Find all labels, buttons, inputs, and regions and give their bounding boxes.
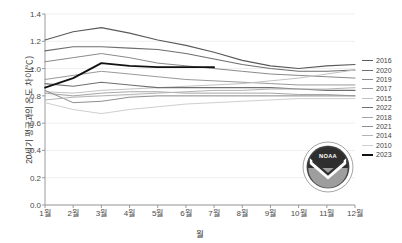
legend-label: 2010 <box>376 141 392 150</box>
x-tick-label: 5월 <box>152 207 163 218</box>
y-tick-label: 0.6 <box>17 119 41 128</box>
legend-item-2023[interactable]: 2023 <box>362 150 402 159</box>
series-line-2010 <box>45 99 355 114</box>
x-tick-label: 6월 <box>180 207 191 218</box>
legend-item-2020[interactable]: 2020 <box>362 65 402 74</box>
x-tick-label: 11월 <box>319 207 334 218</box>
legend-swatch-icon <box>362 98 373 99</box>
noaa-seal-icon: NOAA <box>302 141 354 193</box>
y-tick-label: 0.8 <box>17 91 41 100</box>
svg-text:NOAA: NOAA <box>319 153 337 159</box>
y-tick-label: 1.0 <box>17 64 41 73</box>
x-tick-label: 2월 <box>67 207 78 218</box>
legend-label: 2019 <box>376 75 392 84</box>
legend-swatch-icon <box>362 135 373 136</box>
series-line-2017 <box>45 71 355 85</box>
legend-label: 2018 <box>376 113 392 122</box>
legend-label: 2016 <box>376 56 392 65</box>
legend-swatch-icon <box>362 70 373 71</box>
x-tick-label: 3월 <box>96 207 107 218</box>
legend-item-2016[interactable]: 2016 <box>362 56 402 65</box>
legend: 2016202020192017201520222018202120142010… <box>362 56 402 159</box>
x-tick-label: 1월 <box>39 207 50 218</box>
y-tick-label: 1.4 <box>17 10 41 19</box>
legend-swatch-icon <box>362 117 373 118</box>
legend-swatch-icon <box>362 107 373 108</box>
legend-item-2021[interactable]: 2021 <box>362 122 402 131</box>
legend-swatch-icon <box>362 154 373 156</box>
x-tick-label: 10월 <box>291 207 307 218</box>
legend-label: 2020 <box>376 66 392 75</box>
legend-swatch-icon <box>362 79 373 80</box>
legend-item-2022[interactable]: 2022 <box>362 103 402 112</box>
y-tick-label: 0.4 <box>17 146 41 155</box>
legend-label: 2023 <box>376 150 392 159</box>
legend-item-2010[interactable]: 2010 <box>362 141 402 150</box>
y-tick-label: 1.2 <box>17 37 41 46</box>
legend-swatch-icon <box>362 145 373 146</box>
x-tick-label: 7월 <box>208 207 219 218</box>
legend-item-2015[interactable]: 2015 <box>362 94 402 103</box>
x-tick-label: 12월 <box>347 207 363 218</box>
legend-label: 2017 <box>376 84 392 93</box>
legend-item-2017[interactable]: 2017 <box>362 84 402 93</box>
legend-item-2019[interactable]: 2019 <box>362 75 402 84</box>
legend-item-2018[interactable]: 2018 <box>362 112 402 121</box>
legend-swatch-icon <box>362 88 373 89</box>
legend-item-2014[interactable]: 2014 <box>362 131 402 140</box>
x-tick-label: 4월 <box>124 207 135 218</box>
y-tick-label: 0.0 <box>17 201 41 210</box>
legend-label: 2022 <box>376 103 392 112</box>
y-tick-label: 0.2 <box>17 173 41 182</box>
legend-label: 2015 <box>376 94 392 103</box>
series-line-2018 <box>45 92 355 96</box>
temperature-anomaly-chart: 20세기 평균과의 온도 차이(℃) 0.00.20.40.60.81.01.2… <box>0 0 402 243</box>
x-axis-title: 월 <box>45 227 355 239</box>
y-axis-tick-labels: 0.00.20.40.60.81.01.21.4 <box>0 14 41 205</box>
legend-swatch-icon <box>362 126 373 127</box>
legend-label: 2021 <box>376 122 392 131</box>
x-axis-tick-labels: 1월2월3월4월5월6월7월8월9월10월11월12월 <box>45 207 355 223</box>
x-tick-label: 8월 <box>237 207 248 218</box>
x-tick-label: 9월 <box>265 207 276 218</box>
series-line-2019 <box>45 54 355 79</box>
legend-swatch-icon <box>362 60 373 61</box>
legend-label: 2014 <box>376 131 392 140</box>
noaa-seal-logo: NOAA <box>302 141 354 193</box>
series-line-2016 <box>45 28 355 69</box>
